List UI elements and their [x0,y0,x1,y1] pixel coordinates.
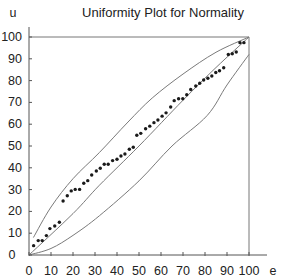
data-point [123,152,126,155]
data-point [173,99,176,102]
y-tick-label: 80 [8,74,22,88]
y-tick-label: 10 [8,226,22,240]
y-tick-label: 0 [9,248,16,262]
data-point [70,189,73,192]
data-point [169,105,172,108]
y-tick-label: 40 [8,161,22,175]
data-point [235,50,238,53]
data-point [53,224,56,227]
data-point [156,118,159,121]
data-point [128,148,131,151]
data-point [202,78,205,81]
data-point [78,188,81,191]
data-point [164,111,167,114]
y-ticks: 0102030405060708090100 [1,30,32,262]
x-tick-label: 20 [66,264,80,278]
data-point [206,77,209,80]
data-point [74,188,77,191]
y-axis-label: u [10,6,17,20]
x-tick-label: 90 [220,264,234,278]
x-tick-label: 60 [154,264,168,278]
y-tick-label: 60 [8,117,22,131]
data-point [58,221,61,224]
x-tick-label: 10 [44,264,58,278]
x-tick-label: 70 [176,264,190,278]
data-point [144,127,147,130]
data-point [177,97,180,100]
data-point [214,71,217,74]
x-tick-label: 40 [110,264,124,278]
data-point [45,234,48,237]
uniformity-chart: Uniformity Plot for Normality u e 010203… [0,0,282,280]
y-tick-label: 30 [8,183,22,197]
data-point [181,97,184,100]
data-point [37,239,40,242]
data-point [82,182,85,185]
y-tick-label: 20 [8,204,22,218]
data-point [231,52,234,55]
x-tick-label: 0 [26,264,33,278]
x-tick-label: 30 [88,264,102,278]
x-ticks: 0102030405060708090100 [26,252,260,278]
data-point [152,121,155,124]
data-point [227,53,230,56]
data-point [132,146,135,149]
data-point [238,41,241,44]
data-point [222,66,225,69]
data-point [242,41,245,44]
data-point [90,173,93,176]
center-line-curve [29,37,249,255]
data-point [218,69,221,72]
data-point [194,84,197,87]
data-point [41,239,44,242]
data-point [160,114,163,117]
data-point [103,163,106,166]
data-point [95,169,98,172]
y-tick-label: 50 [8,139,22,153]
data-point [135,134,138,137]
data-point [107,163,110,166]
data-point [185,93,188,96]
y-tick-label: 90 [8,52,22,66]
data-point [148,124,151,127]
x-tick-label: 100 [239,264,260,278]
axes [29,27,267,255]
y-tick-label: 70 [8,95,22,109]
chart-title: Uniformity Plot for Normality [82,5,244,20]
data-point [99,167,102,170]
data-point [32,244,35,247]
envelope-curves [29,37,249,255]
data-point [48,227,51,230]
x-tick-label: 50 [132,264,146,278]
x-axis-label: e [270,264,277,278]
data-points [32,41,246,247]
y-tick-label: 100 [1,30,22,44]
data-point [189,88,192,91]
data-point [111,159,114,162]
data-point [119,154,122,157]
data-point [210,74,213,77]
data-point [115,158,118,161]
data-point [66,194,69,197]
lower-bound-curve [29,54,249,255]
x-tick-label: 80 [198,264,212,278]
data-point [86,179,89,182]
data-point [61,199,64,202]
data-point [198,82,201,85]
data-point [139,132,142,135]
